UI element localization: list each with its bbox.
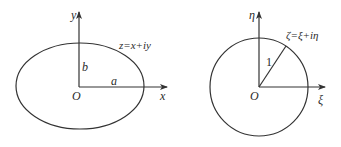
y-axis-label: y (70, 8, 77, 22)
semi-minor-label: b (82, 60, 88, 74)
semi-major-label: a (111, 74, 117, 88)
z-plane-label: z=x+iy (118, 39, 151, 51)
conformal-mapping-diagram: y x O b a z=x+iy η ξ O 1 ζ=ξ+iη (0, 0, 341, 147)
origin-label: O (250, 89, 259, 103)
x-axis-label: x (159, 89, 166, 103)
radius-label: 1 (266, 55, 272, 69)
zeta-plane-panel: η ξ O 1 ζ=ξ+iη (210, 8, 325, 136)
radius-line (259, 46, 286, 87)
origin-label: O (72, 89, 81, 103)
zeta-plane-label: ζ=ξ+iη (286, 29, 319, 42)
xi-axis-label: ξ (318, 93, 324, 107)
eta-axis-label: η (249, 8, 255, 22)
ellipse-contour (16, 43, 144, 129)
z-plane-panel: y x O b a z=x+iy (16, 8, 167, 129)
